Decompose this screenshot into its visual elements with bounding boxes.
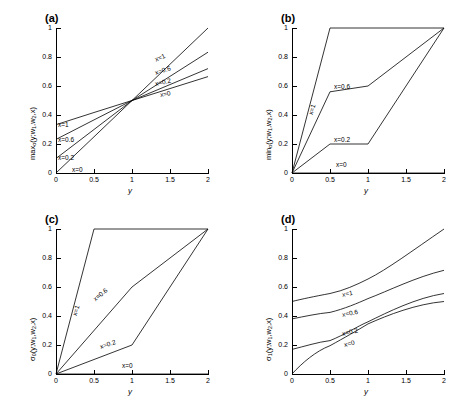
panel-c-curve-x06 (56, 229, 208, 374)
panel-c: (c) 0 0.5 1 1.5 2 0 0.2 0.4 0.6 0.8 (0, 205, 236, 412)
panel-a-letter: (a) (45, 12, 58, 24)
panel-c-ylabel-mid: ,w (28, 329, 37, 337)
panel-b-ylabel-rest: (y;w (264, 131, 273, 145)
panel-a-xticklabel: 0 (46, 176, 66, 183)
panel-d-ylabel-sub3: 2 (267, 326, 273, 329)
panel-c-ylabel-sub: 0 (31, 353, 37, 356)
panel-c-ylabel-sub3: 2 (31, 326, 37, 329)
panel-a-xticklabel: 1.5 (160, 176, 180, 183)
panel-c-yticklabel: 0.6 (34, 283, 52, 290)
panel-b-yticklabel: 0.8 (270, 53, 288, 60)
panel-a-label-left-x1: x=1 (58, 121, 69, 128)
panel-b-xlabel: y (364, 186, 368, 195)
panel-d-xlabel: y (364, 387, 368, 396)
panel-b-yticklabel: 0.6 (270, 82, 288, 89)
panel-a-xticklabel: 0.5 (84, 176, 104, 183)
panel-b-curve-x02 (292, 28, 444, 173)
panel-c-ylabel-main: σ (28, 356, 37, 361)
panel-d-ylabel-end: ,x) (264, 318, 273, 326)
panel-c-curve-x02 (56, 229, 208, 374)
panel-c-xticklabel: 1 (122, 377, 142, 384)
panel-d-ylabel: σ1(y;w1,w2,x) (264, 318, 273, 361)
panel-d-plot: 0 0.5 1 1.5 2 0 0.2 0.4 0.6 0.8 1 (292, 229, 444, 374)
panel-b-yticklabel: 0 (270, 169, 288, 176)
panel-a-plot: 0 0.5 1 1.5 2 0 0.2 0.4 0.6 0.8 1 (56, 28, 208, 173)
panel-c-xticklabel: 1.5 (160, 377, 180, 384)
panel-c-yticklabel: 1 (34, 225, 52, 232)
panel-a-yticklabel: 0.8 (34, 53, 52, 60)
panel-a-curve-x02 (56, 69, 208, 159)
panel-c-letter: (c) (45, 213, 58, 225)
panel-a-label-left-x06: x=0.6 (58, 136, 74, 143)
panel-d-yticklabel: 1 (270, 225, 288, 232)
panel-c-yticklabel: 0 (34, 370, 52, 377)
panel-a-ylabel-sub: α (31, 143, 37, 146)
panel-d-xticklabel: 2 (434, 377, 454, 384)
panel-a-yticklabel: 0.6 (34, 82, 52, 89)
panel-d-ylabel-mid: ,w (264, 329, 273, 337)
panel-d-xticklabel: 0 (282, 377, 302, 384)
panel-a-label-left-x02: x=0.2 (58, 154, 74, 161)
panel-a-xlabel: y (128, 186, 132, 195)
panel-d-xticklabel: 1.5 (396, 377, 416, 384)
panel-b-curve-x06 (292, 28, 444, 173)
panel-b-xticklabel: 0.5 (320, 176, 340, 183)
panel-c-xticklabel: 2 (198, 377, 218, 384)
panel-c-ylabel-end: ,x) (28, 318, 37, 326)
panel-b-curves (292, 28, 445, 174)
panel-b-ylabel: minα(y;w1,w2,x) (264, 109, 273, 160)
panel-b-label-x0: x=0 (336, 161, 347, 168)
panel-c-ylabel: σ0(y;w1,w2,x) (28, 318, 37, 361)
panel-d-ylabel-sub: 1 (267, 353, 273, 356)
panel-c-curves (56, 229, 209, 375)
panel-d-letter: (d) (281, 213, 295, 225)
panel-a-xticklabel: 2 (198, 176, 218, 183)
panel-d: (d) 0 0.5 1 1.5 2 0 0.2 0.4 0.6 0.8 (236, 205, 472, 412)
panel-a-ylabel: maxα(y;w1,w2,x) (28, 107, 37, 160)
figure-canvas: (a) 0 0.5 1 1.5 2 0 0.2 0.4 0.6 (0, 0, 472, 415)
panel-d-yticklabel: 0.6 (270, 283, 288, 290)
panel-c-xticklabel: 0.5 (84, 377, 104, 384)
panel-b-xticklabel: 1.5 (396, 176, 416, 183)
panel-d-curve-x06 (292, 270, 444, 319)
panel-b: (b) 0 0.5 1 1.5 2 0 0.2 0.4 0.6 0.8 (236, 0, 472, 207)
panel-d-xticklabel: 1 (358, 377, 378, 384)
panel-a-label-left-x0: x=0 (72, 166, 83, 173)
panel-b-xticklabel: 2 (434, 176, 454, 183)
panel-c-curve-x1 (56, 229, 208, 374)
panel-d-xticklabel: 0.5 (320, 377, 340, 384)
panel-a-curve-x1 (56, 28, 208, 125)
panel-c-xlabel: y (128, 387, 132, 396)
panel-b-ylabel-main: min (264, 148, 273, 160)
panel-d-yticklabel: 0 (270, 370, 288, 377)
panel-b-ylabel-sub: α (267, 145, 273, 148)
panel-b-ylabel-end: ,x) (264, 109, 273, 117)
panel-d-curve-x0 (292, 302, 444, 375)
panel-a-yticklabel: 1 (34, 24, 52, 31)
panel-a-curves (56, 28, 209, 174)
panel-d-yticklabel: 0.8 (270, 254, 288, 261)
panel-c-yticklabel: 0.8 (34, 254, 52, 261)
panel-b-ylabel-mid: ,w (264, 121, 273, 129)
panel-d-ylabel-sub2: 1 (267, 337, 273, 340)
panel-a-yticklabel: 0 (34, 169, 52, 176)
panel-b-label-x02: x=0.2 (334, 136, 350, 143)
panel-a-curve-x0 (56, 77, 208, 173)
panel-b-ylabel-sub2: 1 (267, 128, 273, 131)
panel-a-curve-x06 (56, 52, 208, 139)
panel-d-curve-x1 (292, 229, 444, 302)
panel-d-curves (292, 229, 445, 375)
panel-b-xticklabel: 0 (282, 176, 302, 183)
panel-a-ylabel-sub3: 2 (31, 115, 37, 118)
panel-a-xticklabel: 1 (122, 176, 142, 183)
panel-b-letter: (b) (281, 12, 295, 24)
panel-c-xticklabel: 0 (46, 377, 66, 384)
panel-c-plot: 0 0.5 1 1.5 2 0 0.2 0.4 0.6 0.8 1 (56, 229, 208, 374)
panel-b-curve-x1 (292, 28, 444, 173)
panel-b-yticklabel: 1 (270, 24, 288, 31)
panel-c-ylabel-rest: (y;w (28, 340, 37, 354)
panel-c-ylabel-sub2: 1 (31, 337, 37, 340)
panel-d-ylabel-rest: (y;w (264, 340, 273, 354)
panel-d-curve-x02 (292, 294, 444, 350)
panel-a-ylabel-main: max (28, 146, 37, 160)
